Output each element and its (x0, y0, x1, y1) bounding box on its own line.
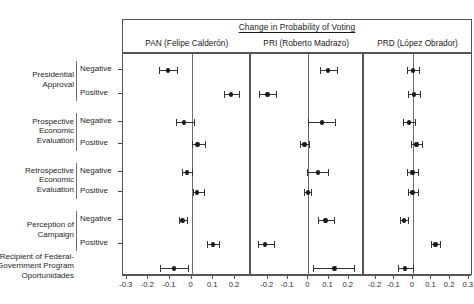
x-axis-tick (449, 275, 450, 279)
row-tick (118, 143, 122, 144)
row-tick (118, 93, 122, 94)
x-axis-tick (348, 275, 349, 279)
group-label-1: ProspectiveEconomicEvaluation (32, 117, 74, 146)
row-tick (118, 171, 122, 172)
x-axis-tick-label: -0.2 (368, 280, 381, 289)
estimate-point[interactable] (172, 266, 176, 270)
row-label-positive: Positive (80, 238, 474, 247)
x-axis-tick-label: 0.1 (322, 280, 333, 289)
row-label-positive: Positive (80, 88, 474, 97)
group-label-4: Recipient of Federal-Government ProgramO… (0, 252, 74, 281)
panel-title-prd: PRD (López Obrador) (364, 38, 472, 48)
x-axis-tick-label: -0.2 (141, 280, 154, 289)
x-axis-tick-label: -0.2 (260, 280, 273, 289)
x-axis-tick (126, 275, 127, 279)
row-label-negative: Negative (80, 166, 474, 175)
row-tick (118, 243, 122, 244)
x-axis-tick (430, 275, 431, 279)
row-label-negative: Negative (80, 64, 474, 73)
group-label-0: PresidentialApproval (32, 70, 74, 89)
x-axis-tick-label: 0 (410, 280, 414, 289)
x-axis-tick-label: -0.1 (280, 280, 293, 289)
x-axis-tick-label: 0.1 (207, 280, 218, 289)
ci-cap-lower (160, 265, 161, 272)
x-axis-tick (468, 275, 469, 279)
ci-cap-upper (413, 265, 414, 272)
chart-header-box: Change in Probability of Voting PAN (Fel… (122, 19, 472, 53)
row-tick (118, 121, 122, 122)
row-tick (118, 219, 122, 220)
estimate-point[interactable] (332, 266, 336, 270)
panel-title-pri: PRI (Roberto Madrazo) (251, 38, 363, 48)
x-axis-tick-label: 0.2 (343, 280, 354, 289)
estimate-point[interactable] (403, 266, 407, 270)
x-axis-tick-label: 0 (188, 280, 192, 289)
x-axis-tick-label: -0.1 (162, 280, 175, 289)
x-axis-tick-label: 0.3 (462, 280, 473, 289)
x-axis-tick (412, 275, 413, 279)
x-axis-tick (328, 275, 329, 279)
x-axis-tick (191, 275, 192, 279)
x-axis-tick (267, 275, 268, 279)
x-axis-line (122, 275, 248, 276)
panel-title-pan: PAN (Felipe Calderón) (125, 38, 250, 48)
ci-cap-lower (398, 265, 399, 272)
group-rule (76, 163, 77, 199)
ci-cap-upper (188, 265, 189, 272)
chart-root: Change in Probability of Voting PAN (Fel… (0, 0, 474, 304)
x-axis-tick (147, 275, 148, 279)
x-axis-tick-label: -0.1 (387, 280, 400, 289)
group-label-2: RetrospectiveEconomicEvaluation (25, 166, 74, 195)
x-axis-tick-label: 0.2 (229, 280, 240, 289)
x-axis-tick (234, 275, 235, 279)
row-label-positive: Positive (80, 186, 474, 195)
x-axis-tick-label: 0 (305, 280, 309, 289)
x-axis-tick-label: 0.1 (425, 280, 436, 289)
x-axis-tick (307, 275, 308, 279)
x-axis-tick-label: 0.2 (444, 280, 455, 289)
group-rule (76, 61, 77, 101)
x-axis-tick (287, 275, 288, 279)
ci-cap-upper (354, 265, 355, 272)
row-tick (118, 191, 122, 192)
row-label-negative: Negative (80, 214, 474, 223)
x-axis-line (248, 275, 361, 276)
row-label-positive: Positive (80, 138, 474, 147)
x-axis-tick (375, 275, 376, 279)
group-label-3: Perception ofCampaign (27, 220, 74, 239)
x-axis-tick (393, 275, 394, 279)
x-axis-line (361, 275, 471, 276)
row-label-negative: Negative (80, 116, 474, 125)
x-axis-tick-label: -0.3 (119, 280, 132, 289)
group-rule (76, 211, 77, 251)
chart-title: Change in Probability of Voting (123, 22, 471, 32)
ci-cap-lower (313, 265, 314, 272)
x-axis-tick (169, 275, 170, 279)
row-tick (118, 69, 122, 70)
x-axis-tick (212, 275, 213, 279)
group-rule (76, 113, 77, 151)
